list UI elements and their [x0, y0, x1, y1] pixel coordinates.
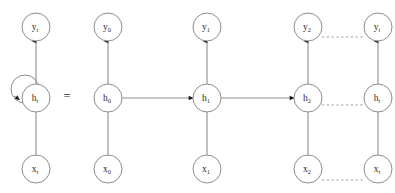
timestep-column-0: y0 h0 x0	[94, 13, 122, 183]
node-output-0: y0	[94, 13, 122, 41]
timestep-column-2: y2 h2 x2	[294, 13, 322, 183]
equals-sign: =	[63, 88, 70, 103]
node-input-t: xt	[364, 155, 392, 183]
node-input-2: x2	[294, 155, 322, 183]
timestep-column-1: y1 h1 x1	[193, 13, 221, 183]
node-input-1: x1	[193, 155, 221, 183]
timestep-column-t: yt ht xt	[364, 13, 392, 183]
node-output-2: y2	[294, 13, 322, 41]
diagram-canvas: yt ht xt =	[0, 0, 395, 193]
node-output-t: yt	[364, 13, 392, 41]
node-hidden-1: h1	[193, 84, 221, 112]
node-hidden-2: h2	[294, 84, 322, 112]
node-folded-hidden: ht	[22, 84, 50, 112]
node-input-0: x0	[94, 155, 122, 183]
unrolled-chain-group: y0 h0 x0	[94, 13, 392, 183]
node-output-1: y1	[193, 13, 221, 41]
folded-cell-group: yt ht xt	[11, 13, 50, 183]
node-hidden-0: h0	[94, 84, 122, 112]
node-folded-output: yt	[22, 13, 50, 41]
node-hidden-t: ht	[364, 84, 392, 112]
node-folded-input: xt	[22, 155, 50, 183]
rnn-unrolled-diagram: yt ht xt =	[0, 0, 395, 193]
